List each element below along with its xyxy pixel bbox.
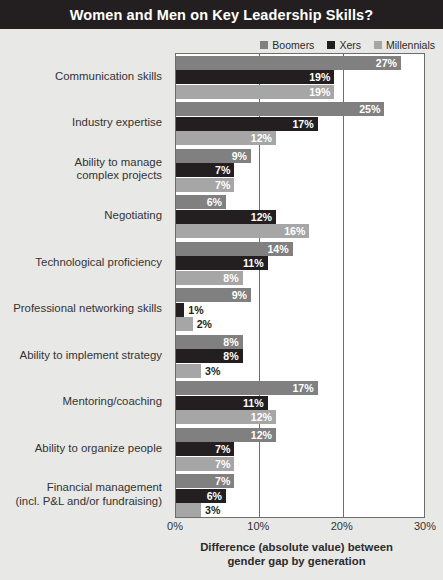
x-tick-label: 10%: [247, 520, 269, 532]
bar-value-label: 2%: [193, 318, 212, 330]
category-label: Financial management (incl. P&L and/or f…: [16, 481, 162, 508]
bar-value-label: 9%: [232, 150, 251, 162]
bar: 9%: [176, 288, 251, 302]
square-swatch-icon: [374, 41, 382, 49]
bar: 3%: [176, 503, 201, 517]
bar-value-label: 8%: [223, 336, 242, 348]
bar-value-label: 7%: [215, 475, 234, 487]
legend-label: Boomers: [272, 39, 314, 51]
bar-value-label: 6%: [207, 196, 226, 208]
chart-area: Communication skillsIndustry expertiseAb…: [0, 53, 443, 518]
bar: 8%: [176, 335, 243, 349]
legend-label: Millennials: [386, 39, 435, 51]
legend-item-boomers[interactable]: Boomers: [260, 39, 314, 51]
bar-value-label: 19%: [309, 71, 334, 83]
category-label-column: Communication skillsIndustry expertiseAb…: [0, 53, 170, 518]
category-label: Ability to manage complex projects: [75, 156, 162, 183]
bar-value-label: 8%: [223, 350, 242, 362]
bar-value-label: 3%: [201, 504, 220, 516]
bar-value-label: 6%: [207, 490, 226, 502]
bar-value-label: 11%: [243, 397, 268, 409]
bar-value-label: 1%: [184, 304, 203, 316]
bar: 3%: [176, 364, 201, 378]
bar: 19%: [176, 85, 334, 99]
bar-value-label: 12%: [251, 411, 276, 423]
bar: 11%: [176, 396, 268, 410]
bar-value-label: 7%: [215, 164, 234, 176]
bar: 1%: [176, 303, 184, 317]
category-label: Ability to implement strategy: [20, 349, 162, 363]
bar: 7%: [176, 457, 234, 471]
legend-item-millennials[interactable]: Millennials: [374, 39, 435, 51]
category-label: Industry expertise: [72, 116, 162, 130]
bar: 17%: [176, 117, 318, 131]
x-axis-label: Difference (absolute value) between gend…: [150, 540, 443, 568]
bar: 12%: [176, 210, 276, 224]
bar-value-label: 11%: [243, 257, 268, 269]
category-label: Ability to organize people: [35, 442, 162, 456]
chart-legend: BoomersXersMillennials: [260, 38, 435, 52]
square-swatch-icon: [327, 41, 335, 49]
category-label: Negotiating: [104, 209, 162, 223]
chart-title-bar: Women and Men on Key Leadership Skills?: [0, 0, 443, 29]
bar: 6%: [176, 489, 226, 503]
bar-value-label: 19%: [309, 86, 334, 98]
bar-value-label: 17%: [292, 118, 317, 130]
bar: 8%: [176, 349, 243, 363]
bar: 12%: [176, 131, 276, 145]
bar: 27%: [176, 56, 401, 70]
bar-value-label: 8%: [223, 272, 242, 284]
category-label: Professional networking skills: [13, 302, 162, 316]
bar: 19%: [176, 70, 334, 84]
bar: 11%: [176, 256, 268, 270]
category-label: Technological proficiency: [35, 256, 162, 270]
bar: 12%: [176, 410, 276, 424]
bar-value-label: 12%: [251, 132, 276, 144]
bar: 14%: [176, 242, 293, 256]
bar: 16%: [176, 224, 309, 238]
x-tick-label: 30%: [414, 520, 436, 532]
bar-value-label: 9%: [232, 289, 251, 301]
bar-value-label: 7%: [215, 443, 234, 455]
bar: 7%: [176, 163, 234, 177]
category-label: Mentoring/coaching: [63, 395, 162, 409]
bar-value-label: 27%: [376, 57, 401, 69]
bar-value-label: 3%: [201, 365, 220, 377]
gridline-20: [343, 54, 344, 517]
square-swatch-icon: [260, 41, 268, 49]
bar: 7%: [176, 474, 234, 488]
x-axis-ticks: 0%10%20%30%: [175, 520, 425, 536]
bar: 7%: [176, 178, 234, 192]
bar: 12%: [176, 428, 276, 442]
bar-value-label: 7%: [215, 458, 234, 470]
bar-value-label: 12%: [251, 211, 276, 223]
bar: 17%: [176, 381, 318, 395]
legend-item-xers[interactable]: Xers: [327, 39, 361, 51]
bar-value-label: 7%: [215, 179, 234, 191]
plot-area: 27%19%19%25%17%12%9%7%7%6%12%16%14%11%8%…: [175, 53, 425, 518]
bar-value-label: 17%: [292, 382, 317, 394]
page-title: Women and Men on Key Leadership Skills?: [70, 7, 373, 23]
bar-value-label: 16%: [284, 225, 309, 237]
bar: 9%: [176, 149, 251, 163]
category-label: Communication skills: [55, 70, 162, 84]
bar-value-label: 25%: [359, 103, 384, 115]
bar: 2%: [176, 317, 193, 331]
bar: 6%: [176, 195, 226, 209]
bar: 25%: [176, 102, 384, 116]
bar-value-label: 14%: [267, 243, 292, 255]
bar-value-label: 12%: [251, 429, 276, 441]
x-tick-label: 0%: [167, 520, 183, 532]
bar: 8%: [176, 271, 243, 285]
legend-label: Xers: [339, 39, 361, 51]
bar: 7%: [176, 442, 234, 456]
x-tick-label: 20%: [331, 520, 353, 532]
